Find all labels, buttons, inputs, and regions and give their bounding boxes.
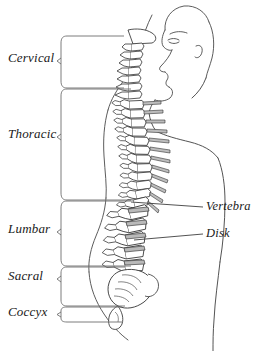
region-label-thoracic: Thoracic (8, 127, 57, 140)
region-label-lumbar: Lumbar (8, 222, 50, 235)
cervical-vertebrae (115, 29, 156, 99)
region-label-coccyx: Coccyx (8, 305, 47, 318)
region-label-sacral: Sacral (8, 269, 43, 282)
thoracic-vertebrae (111, 98, 152, 210)
torso-contour (149, 78, 225, 351)
coccyx (109, 306, 123, 329)
bracket-box-cervical (61, 36, 124, 88)
part-label-vertebra: Vertebra (206, 200, 251, 213)
region-label-cervical: Cervical (8, 51, 54, 64)
sacrum (108, 269, 159, 308)
spine-anatomy-figure: Cervical Thoracic Lumbar Sacral Coccyx V… (0, 0, 262, 351)
spinal-column (102, 29, 170, 329)
part-label-disk: Disk (206, 227, 230, 240)
body-profile-outline (149, 6, 214, 113)
